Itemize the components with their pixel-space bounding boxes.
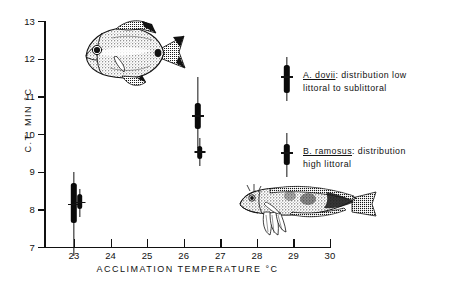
x-tick-label-24: 24 bbox=[98, 250, 124, 261]
x-tick-label-26: 26 bbox=[171, 250, 197, 261]
fish-a-dovii-illustration bbox=[72, 16, 190, 92]
x-tick-24 bbox=[111, 239, 112, 247]
y-axis-title: C.T. MIN °C bbox=[23, 50, 33, 190]
legend-desc-a-dovii-line1: distribution low bbox=[338, 70, 406, 80]
y-tick-8 bbox=[38, 209, 44, 210]
x-tick-29 bbox=[293, 239, 294, 247]
legend-label-b-ramosus-line2: high littoral bbox=[303, 158, 351, 171]
sd-bar bbox=[284, 144, 290, 165]
x-tick-25 bbox=[147, 239, 148, 247]
x-axis-title: ACCLIMATION TEMPERATURE °C bbox=[44, 264, 331, 274]
legend-species-a-dovii: A. dovii bbox=[303, 70, 335, 80]
fish-b-ramosus-illustration bbox=[234, 182, 378, 236]
y-axis-line bbox=[44, 21, 46, 248]
figure-panel: 13 12 11 10 9 8 7 C.T. MIN °C 23 24 25 2… bbox=[0, 0, 454, 286]
datapoint-b-ramosus-26 bbox=[194, 70, 205, 180]
datapoint-b-ramosus-23 bbox=[74, 103, 85, 213]
y-tick-10 bbox=[38, 134, 44, 135]
y-tick-label-7: 7 bbox=[13, 242, 35, 253]
x-tick-label-25: 25 bbox=[134, 250, 160, 261]
x-axis-line bbox=[44, 247, 331, 249]
y-tick-label-8: 8 bbox=[13, 204, 35, 215]
legend-key-a-dovii bbox=[281, 55, 293, 103]
y-tick-9 bbox=[38, 172, 44, 173]
mean-tick bbox=[74, 202, 85, 204]
y-tick-11 bbox=[38, 96, 44, 97]
y-tick-label-13: 13 bbox=[13, 16, 35, 27]
legend-label-a-dovii-line1: A. dovii: distribution low bbox=[303, 69, 407, 82]
mean-tick bbox=[281, 76, 293, 78]
x-tick-label-27: 27 bbox=[207, 250, 233, 261]
legend-species-b-ramosus: B. ramosus bbox=[303, 146, 352, 156]
y-tick-12 bbox=[38, 59, 44, 60]
legend-key-b-ramosus bbox=[281, 131, 293, 179]
y-tick-13 bbox=[38, 21, 44, 22]
x-tick-27 bbox=[220, 239, 221, 247]
sd-bar bbox=[284, 65, 290, 93]
legend-entry-a-dovii: A. dovii: distribution low littoral to s… bbox=[281, 55, 451, 103]
legend-label-a-dovii-line2: littoral to sublittoral bbox=[303, 82, 387, 95]
x-tick-label-30: 30 bbox=[317, 250, 343, 261]
mean-tick bbox=[281, 152, 293, 154]
x-tick-label-29: 29 bbox=[280, 250, 306, 261]
legend-desc-b-ramosus-line1: distribution bbox=[355, 146, 406, 156]
x-tick-30 bbox=[330, 239, 331, 247]
x-tick-label-28: 28 bbox=[244, 250, 270, 261]
legend-entry-b-ramosus: B. ramosus: distribution high littoral bbox=[281, 131, 451, 179]
x-tick-28 bbox=[257, 239, 258, 247]
x-tick-26 bbox=[184, 239, 185, 247]
legend-label-b-ramosus-line1: B. ramosus: distribution bbox=[303, 145, 406, 158]
mean-tick bbox=[194, 151, 205, 153]
